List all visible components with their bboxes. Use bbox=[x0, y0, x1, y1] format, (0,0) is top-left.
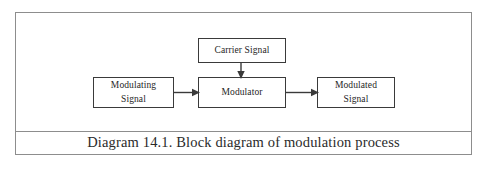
node-carrier-signal-label: Carrier Signal bbox=[215, 44, 270, 58]
node-modulating-signal: Modulating Signal bbox=[93, 77, 174, 108]
figure-page: Carrier Signal Modulating Signal Modulat… bbox=[0, 0, 488, 169]
figure-caption-text: Diagram 14.1. Block diagram of modulatio… bbox=[87, 135, 400, 151]
node-modulator: Modulator bbox=[198, 77, 286, 108]
diagram-canvas: Carrier Signal Modulating Signal Modulat… bbox=[16, 13, 471, 131]
node-modulating-signal-label-line2: Signal bbox=[121, 93, 146, 107]
node-modulating-signal-label-line1: Modulating bbox=[111, 79, 156, 93]
node-modulator-label: Modulator bbox=[221, 86, 262, 100]
node-modulated-signal-label-line1: Modulated bbox=[335, 79, 377, 93]
arrow-modulator-to-modulated bbox=[286, 85, 319, 100]
figure-caption-band: Diagram 14.1. Block diagram of modulatio… bbox=[16, 131, 471, 154]
arrow-modulating-to-modulator bbox=[174, 85, 200, 100]
figure-frame: Carrier Signal Modulating Signal Modulat… bbox=[15, 12, 472, 155]
node-carrier-signal: Carrier Signal bbox=[198, 38, 286, 63]
arrow-carrier-to-modulator bbox=[234, 63, 248, 79]
node-modulated-signal-label-line2: Signal bbox=[344, 93, 369, 107]
node-modulated-signal: Modulated Signal bbox=[317, 77, 395, 108]
